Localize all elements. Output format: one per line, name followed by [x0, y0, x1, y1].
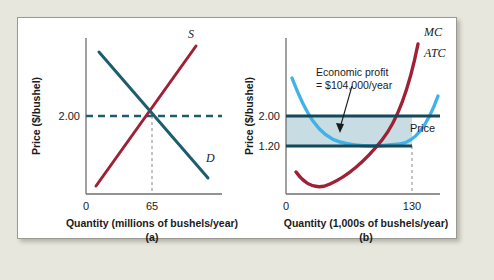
economic-profit-label-line2: = $104,000/year [316, 79, 393, 91]
panel-b-ytick-120: 1.20 [259, 140, 280, 152]
panel-b-xaxis-title: Quantity (1,000s of bushels/year) [284, 217, 449, 229]
panel-b-tag: (b) [359, 231, 372, 243]
panel-a-xtick-65: 65 [146, 200, 158, 212]
panel-b-yaxis-title: Price ($/bushel) [243, 77, 255, 155]
demand-curve-label: D [205, 151, 215, 165]
panel-a-equilibrium-guides [86, 116, 222, 194]
panel-a-ytick-200: 2.00 [59, 110, 80, 122]
economic-profit-label-line1: Economic profit [316, 66, 388, 78]
supply-curve-label: S [188, 27, 194, 41]
panel-a: S D 2.00 0 65 Quantity (millions of bush… [30, 27, 238, 243]
atc-curve-label: ATC [423, 46, 447, 60]
mc-curve-label: MC [423, 25, 443, 39]
panel-a-xtick-zero: 0 [83, 200, 89, 212]
panel-b-ytick-200: 2.00 [259, 110, 280, 122]
figure-root: S D 2.00 0 65 Quantity (millions of bush… [0, 0, 494, 280]
panel-b-xtick-130: 130 [403, 200, 421, 212]
panel-b: Economic profit = $104,000/year MC ATC P… [243, 25, 448, 243]
price-line-label: Price [410, 122, 435, 134]
panel-b-xtick-zero: 0 [283, 200, 289, 212]
panel-a-tag: (a) [146, 231, 159, 243]
panel-a-xaxis-title: Quantity (millions of bushels/year) [66, 217, 238, 229]
panel-a-yaxis-title: Price ($/bushel) [30, 77, 42, 155]
figure-canvas: S D 2.00 0 65 Quantity (millions of bush… [0, 0, 494, 280]
